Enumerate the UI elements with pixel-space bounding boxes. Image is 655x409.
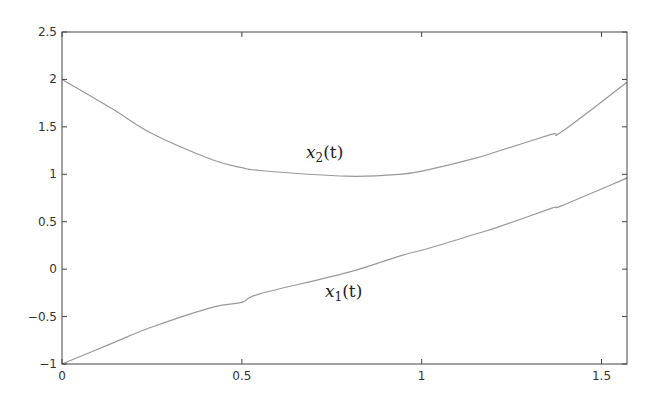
x-tick-label: 1 <box>418 369 426 383</box>
y-tick-label: 0.5 <box>38 215 57 229</box>
y-tick-label: 2.5 <box>38 25 57 39</box>
plot-frame <box>62 32 627 364</box>
curve-x1t <box>62 178 627 364</box>
x-tick-label: 1.5 <box>592 369 611 383</box>
y-tick-label: 0 <box>49 262 57 276</box>
x-tick-label: 0.5 <box>232 369 251 383</box>
y-axis: −1−0.500.511.522.5 <box>28 25 627 371</box>
x-axis: 00.511.5 <box>58 32 611 383</box>
y-tick-label: 1.5 <box>38 120 57 134</box>
x-tick-label: 0 <box>58 369 66 383</box>
y-tick-label: 2 <box>49 72 57 86</box>
line-chart: 00.511.5 −1−0.500.511.522.5 x2(t) x1(t) <box>0 0 655 409</box>
y-tick-label: −1 <box>39 357 57 371</box>
curves <box>62 79 627 364</box>
label-x1: x1(t) <box>325 281 362 304</box>
y-tick-label: −0.5 <box>28 310 57 324</box>
y-tick-label: 1 <box>49 167 57 181</box>
curve-x2t <box>62 79 627 176</box>
label-x2: x2(t) <box>306 142 343 165</box>
